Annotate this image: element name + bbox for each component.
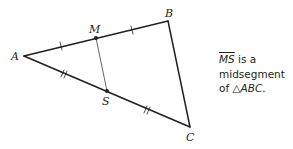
caption-text: of — [219, 82, 232, 94]
caption-line-2: midsegment — [219, 67, 291, 82]
point-s — [105, 89, 109, 93]
caption-line-1: MS is a — [219, 52, 291, 67]
caption-text: . — [262, 82, 265, 94]
tick-am — [60, 42, 62, 50]
caption: MS is a midsegment of △ABC. — [219, 52, 291, 96]
label-c: C — [186, 131, 195, 144]
segment-ms: MS — [219, 53, 235, 65]
label-a: A — [10, 50, 19, 63]
caption-text: is a — [235, 53, 257, 65]
side-bc — [168, 21, 190, 127]
midsegment-ms — [96, 38, 107, 91]
label-b: B — [164, 7, 173, 20]
triangle-name: ABC — [241, 82, 263, 94]
triangle-symbol-icon: △ — [232, 82, 240, 94]
label-m: M — [88, 23, 101, 36]
point-m — [94, 36, 98, 40]
caption-line-3: of △ABC. — [219, 81, 291, 96]
label-s: S — [102, 95, 110, 108]
